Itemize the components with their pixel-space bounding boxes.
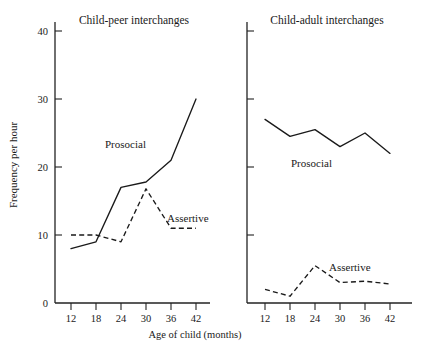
y-ticks-right xyxy=(247,31,254,235)
series-line-assertive-child-adult xyxy=(265,266,390,297)
y-tick-label-40: 40 xyxy=(38,26,49,37)
series-label-prosocial-child-peer: Prosocial xyxy=(105,138,146,150)
figure-container: Child-peer interchanges 40 30 20 10 0 xyxy=(0,0,429,352)
panel-child-peer: Child-peer interchanges 40 30 20 10 0 xyxy=(38,14,211,324)
series-line-prosocial-child-adult xyxy=(265,119,390,153)
y-tick-label-20: 20 xyxy=(38,162,49,173)
series-label-prosocial-child-adult: Prosocial xyxy=(291,157,332,169)
y-tick-label-10: 10 xyxy=(38,230,49,241)
x-tick-label-right-18: 18 xyxy=(285,313,296,324)
y-tick-label-0: 0 xyxy=(43,298,48,309)
x-axis-title: Age of child (months) xyxy=(148,329,242,341)
y-axis-title: Frequency per hour xyxy=(7,122,19,208)
x-tick-label-right-42: 42 xyxy=(385,313,396,324)
x-ticks-left xyxy=(71,303,196,310)
chart-svg: Child-peer interchanges 40 30 20 10 0 xyxy=(0,0,429,352)
x-tick-label-36: 36 xyxy=(166,313,177,324)
y-tick-label-30: 30 xyxy=(38,94,49,105)
x-tick-label-right-12: 12 xyxy=(260,313,271,324)
x-tick-label-18: 18 xyxy=(91,313,102,324)
panel-child-adult: Child-adult interchanges xyxy=(247,14,412,324)
x-tick-label-24: 24 xyxy=(116,313,127,324)
series-label-assertive-child-peer: Assertive xyxy=(167,212,209,224)
x-tick-label-12: 12 xyxy=(66,313,77,324)
series-line-prosocial-child-peer xyxy=(71,99,196,249)
x-tick-label-right-24: 24 xyxy=(310,313,321,324)
series-label-assertive-child-adult: Assertive xyxy=(329,261,371,273)
x-tick-label-right-30: 30 xyxy=(335,313,346,324)
x-ticks-right xyxy=(265,303,390,310)
x-tick-label-42: 42 xyxy=(191,313,202,324)
panel-title-child-peer: Child-peer interchanges xyxy=(79,14,190,27)
x-tick-label-30: 30 xyxy=(141,313,152,324)
y-ticks-left xyxy=(55,31,62,235)
panel-title-child-adult: Child-adult interchanges xyxy=(270,14,384,27)
x-tick-label-right-36: 36 xyxy=(360,313,371,324)
